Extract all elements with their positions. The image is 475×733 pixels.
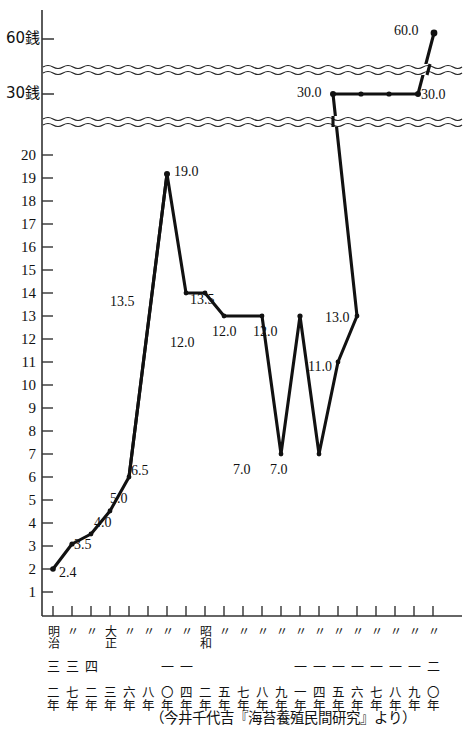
x-axis-column-4: 〃 六 年 — [121, 626, 138, 712]
x-era-0: 明 治 — [45, 626, 62, 656]
x-tick-marks — [53, 606, 433, 616]
x-ditto-16: 〃 — [349, 626, 366, 656]
x-ditto-10: 〃 — [235, 626, 252, 656]
x-year-2: 二 年 — [83, 686, 100, 712]
y-tick-label-10: 10 — [6, 378, 36, 393]
x-decade-18: 一 — [387, 656, 404, 686]
x-year-3: 三 年 — [102, 686, 119, 712]
point-label-30-0-a: 30.0 — [297, 86, 322, 100]
x-ditto-5: 〃 — [140, 626, 157, 656]
axis-break-band-upper — [43, 64, 462, 75]
x-axis-column-12: 〃 九 年 — [273, 626, 290, 712]
y-tick-label-12: 12 — [6, 332, 36, 347]
x-axis-column-10: 〃 七 年 — [235, 626, 252, 712]
x-axis-column-7: 〃 一 四 年 — [178, 626, 195, 712]
x-decade-14: 一 — [311, 656, 328, 686]
x-axis-column-8: 昭 和 二 年 — [197, 626, 214, 712]
x-ditto-17: 〃 — [368, 626, 385, 656]
point-label-7-0-a: 7.0 — [233, 463, 251, 477]
point-label-12-0-b: 12.0 — [212, 325, 237, 339]
x-ditto-2: 〃 — [83, 626, 100, 656]
x-decade-1: 三 — [64, 656, 81, 686]
x-decade-10 — [235, 656, 252, 686]
point-label-11-0: 11.0 — [308, 360, 332, 374]
x-axis-column-19: 〃 一 九 年 — [406, 626, 423, 712]
x-decade-8 — [197, 656, 214, 686]
x-ditto-7: 〃 — [178, 626, 195, 656]
x-decade-15: 一 — [330, 656, 347, 686]
nori-price-chart: 60銭 30銭 20 19 18 17 16 15 14 13 12 11 10… — [0, 0, 475, 733]
x-year-20: 〇 年 — [425, 686, 442, 712]
y-tick-label-13: 13 — [6, 309, 36, 324]
chart-plot-area — [0, 0, 475, 733]
x-axis-column-1: 〃 三 七 年 — [64, 626, 81, 712]
x-year-0: 二 年 — [45, 686, 62, 712]
y-tick-label-9: 9 — [6, 401, 36, 416]
y-tick-label-6: 6 — [6, 470, 36, 485]
x-era-8: 昭 和 — [197, 626, 214, 656]
x-ditto-20: 〃 — [425, 626, 442, 656]
y-tick-label-19: 19 — [6, 171, 36, 186]
x-ditto-19: 〃 — [406, 626, 423, 656]
x-ditto-15: 〃 — [330, 626, 347, 656]
y-tick-label-7: 7 — [6, 447, 36, 462]
x-decade-19: 一 — [406, 656, 423, 686]
x-ditto-11: 〃 — [254, 626, 271, 656]
x-ditto-4: 〃 — [121, 626, 138, 656]
point-label-13-5-a: 13.5 — [110, 295, 135, 309]
y-tick-label-20: 20 — [6, 148, 36, 163]
x-decade-7: 一 — [178, 656, 195, 686]
point-label-12-0-a: 12.0 — [170, 336, 195, 350]
y-tick-label-16: 16 — [6, 240, 36, 255]
point-label-3-5: 3.5 — [74, 538, 92, 552]
x-ditto-9: 〃 — [216, 626, 233, 656]
x-year-4: 六 年 — [121, 686, 138, 712]
point-label-7-0-b: 7.0 — [270, 463, 288, 477]
x-axis-column-5: 〃 八 年 — [140, 626, 157, 712]
x-axis-column-9: 〃 五 年 — [216, 626, 233, 712]
point-label-5-0: 5.0 — [110, 492, 128, 506]
x-ditto-18: 〃 — [387, 626, 404, 656]
x-axis-column-15: 〃 一 五 年 — [330, 626, 347, 712]
x-axis-column-6: 〃 一 〇 年 — [159, 626, 176, 712]
point-label-4-0: 4.0 — [94, 516, 112, 530]
y-tick-label-17: 17 — [6, 217, 36, 232]
x-axis-column-16: 〃 一 六 年 — [349, 626, 366, 712]
x-decade-4 — [121, 656, 138, 686]
x-ditto-14: 〃 — [311, 626, 328, 656]
x-decade-20: 二 — [425, 656, 442, 686]
y-tick-label-18: 18 — [6, 194, 36, 209]
point-label-60-0: 60.0 — [394, 24, 419, 38]
x-axis-column-11: 〃 八 年 — [254, 626, 271, 712]
x-decade-9 — [216, 656, 233, 686]
x-decade-12 — [273, 656, 290, 686]
y-label-30sen: 30銭 — [6, 86, 40, 101]
x-axis-column-14: 〃 一 四 年 — [311, 626, 328, 712]
y-tick-label-4: 4 — [6, 516, 36, 531]
source-caption: （今井千代吉『海苔養殖民間研究』より） — [150, 706, 416, 727]
x-decade-16: 一 — [349, 656, 366, 686]
x-era-3: 大 正 — [102, 626, 119, 656]
point-label-19-0: 19.0 — [174, 165, 199, 179]
x-decade-2: 四 — [83, 656, 100, 686]
y-tick-label-15: 15 — [6, 263, 36, 278]
x-axis-column-17: 〃 一 七 年 — [368, 626, 385, 712]
x-axis-column-13: 〃 一 一 年 — [292, 626, 309, 712]
x-decade-0: 三 — [45, 656, 62, 686]
x-ditto-1: 〃 — [64, 626, 81, 656]
point-label-13-5-b: 13.5 — [190, 293, 215, 307]
point-label-2-4: 2.4 — [59, 566, 77, 580]
y-label-60sen: 60銭 — [6, 31, 40, 46]
point-label-6-5: 6.5 — [131, 464, 149, 478]
x-axis-column-0: 明 治 三 二 年 — [45, 626, 62, 712]
x-ditto-12: 〃 — [273, 626, 290, 656]
x-axis-column-20: 〃 二 〇 年 — [425, 626, 442, 712]
y-tick-label-1: 1 — [6, 585, 36, 600]
point-label-13-0: 13.0 — [325, 311, 350, 325]
x-axis-column-2: 〃 四 二 年 — [83, 626, 100, 712]
x-decade-6: 一 — [159, 656, 176, 686]
x-year-1: 七 年 — [64, 686, 81, 712]
y-tick-label-14: 14 — [6, 286, 36, 301]
y-tick-label-8: 8 — [6, 424, 36, 439]
x-ditto-13: 〃 — [292, 626, 309, 656]
